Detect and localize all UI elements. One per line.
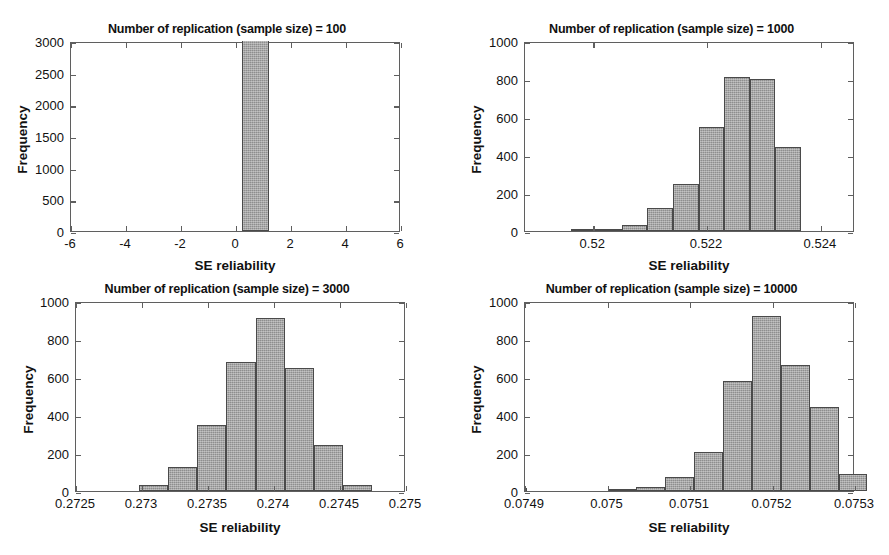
y-tick-mark [399, 379, 404, 380]
y-tick-mark [76, 379, 81, 380]
y-tick-mark [76, 341, 81, 342]
histogram-bar [242, 41, 270, 231]
histogram-bars-top-left [71, 43, 399, 231]
y-tick-mark [848, 119, 853, 120]
y-tick-label: 200 [0, 447, 69, 462]
x-tick-label: 0.522 [690, 236, 723, 251]
x-axis-label-bottom-left: SE reliability [75, 520, 405, 535]
y-tick-mark [399, 455, 404, 456]
histogram-bar [724, 77, 750, 231]
y-tick-mark [525, 417, 530, 418]
y-tick-label: 800 [444, 73, 518, 88]
y-tick-label: 800 [0, 333, 69, 348]
x-tick-label: -6 [64, 236, 76, 251]
histogram-bar [694, 452, 723, 491]
x-tick-mark [236, 43, 237, 48]
x-tick-mark [291, 43, 292, 48]
x-tick-label: 0.2745 [319, 496, 359, 511]
histogram-bar [723, 381, 752, 491]
x-tick-mark [236, 226, 237, 231]
y-tick-mark [71, 170, 76, 171]
y-tick-label: 800 [444, 333, 518, 348]
y-tick-mark [525, 43, 530, 44]
x-tick-mark [76, 303, 77, 308]
x-tick-mark [126, 226, 127, 231]
histogram-bars-bottom-left [76, 303, 404, 491]
y-tick-label: 0 [444, 225, 518, 240]
x-tick-label: 0.2735 [187, 496, 227, 511]
x-tick-mark [593, 226, 594, 231]
histogram-bar [622, 225, 648, 231]
x-tick-mark [690, 486, 691, 491]
y-tick-label: 600 [0, 371, 69, 386]
x-tick-mark [346, 226, 347, 231]
y-tick-label: 1500 [0, 130, 64, 145]
x-tick-mark [401, 226, 402, 231]
x-tick-label: 0.0752 [752, 496, 792, 511]
y-tick-label: 200 [444, 447, 518, 462]
histogram-bar [781, 365, 810, 491]
histogram-bar [256, 318, 285, 491]
x-tick-mark [142, 303, 143, 308]
x-tick-label: 4 [341, 236, 348, 251]
y-tick-mark [71, 106, 76, 107]
panel-bottom-left: Number of replication (sample size) = 30… [0, 282, 444, 552]
x-tick-label: 0.273 [125, 496, 158, 511]
y-tick-mark [76, 455, 81, 456]
x-tick-mark [401, 43, 402, 48]
y-tick-mark [525, 81, 530, 82]
x-axis-label-bottom-right: SE reliability [524, 520, 854, 535]
x-tick-label: 0.0753 [834, 496, 874, 511]
x-tick-mark [208, 486, 209, 491]
x-tick-mark [855, 486, 856, 491]
x-tick-mark [181, 43, 182, 48]
y-tick-mark [394, 138, 399, 139]
y-tick-label: 400 [444, 149, 518, 164]
x-tick-mark [593, 43, 594, 48]
x-tick-mark [71, 43, 72, 48]
x-tick-label: 0.0751 [669, 496, 709, 511]
y-tick-label: 1000 [0, 295, 69, 310]
x-axis-label-top-right: SE reliability [524, 258, 854, 273]
histogram-bar [226, 362, 255, 491]
y-tick-mark [848, 341, 853, 342]
histogram-bar [314, 445, 343, 491]
x-tick-mark [821, 43, 822, 48]
x-tick-mark [525, 486, 526, 491]
y-axis-label-bottom-right: Frequency [469, 350, 484, 450]
y-tick-mark [394, 170, 399, 171]
x-tick-mark [773, 303, 774, 308]
panel-title-top-left: Number of replication (sample size) = 10… [20, 22, 434, 36]
y-tick-mark [525, 195, 530, 196]
y-tick-mark [399, 493, 404, 494]
x-tick-mark [525, 303, 526, 308]
y-tick-label: 500 [0, 193, 64, 208]
histogram-bar [750, 79, 776, 231]
y-tick-mark [399, 341, 404, 342]
y-tick-mark [525, 379, 530, 380]
x-tick-mark [76, 486, 77, 491]
y-tick-mark [394, 233, 399, 234]
y-tick-mark [394, 75, 399, 76]
y-tick-mark [71, 75, 76, 76]
panel-title-bottom-left: Number of replication (sample size) = 30… [20, 282, 434, 296]
y-tick-label: 400 [444, 409, 518, 424]
histogram-bar [285, 368, 314, 492]
y-tick-mark [848, 417, 853, 418]
x-axis-label-top-left: SE reliability [70, 258, 400, 273]
y-tick-label: 1000 [0, 161, 64, 176]
histogram-bar [752, 316, 781, 491]
histogram-bars-top-right [525, 43, 853, 231]
x-tick-label: 0.275 [389, 496, 422, 511]
x-tick-mark [608, 486, 609, 491]
y-tick-mark [848, 81, 853, 82]
y-tick-mark [525, 233, 530, 234]
y-tick-mark [848, 233, 853, 234]
x-tick-mark [406, 303, 407, 308]
y-axis-label-bottom-left: Frequency [21, 350, 36, 450]
x-tick-mark [208, 303, 209, 308]
histogram-bar [343, 485, 372, 491]
y-tick-mark [848, 455, 853, 456]
y-tick-label: 2500 [0, 66, 64, 81]
histogram-bar [810, 407, 839, 491]
